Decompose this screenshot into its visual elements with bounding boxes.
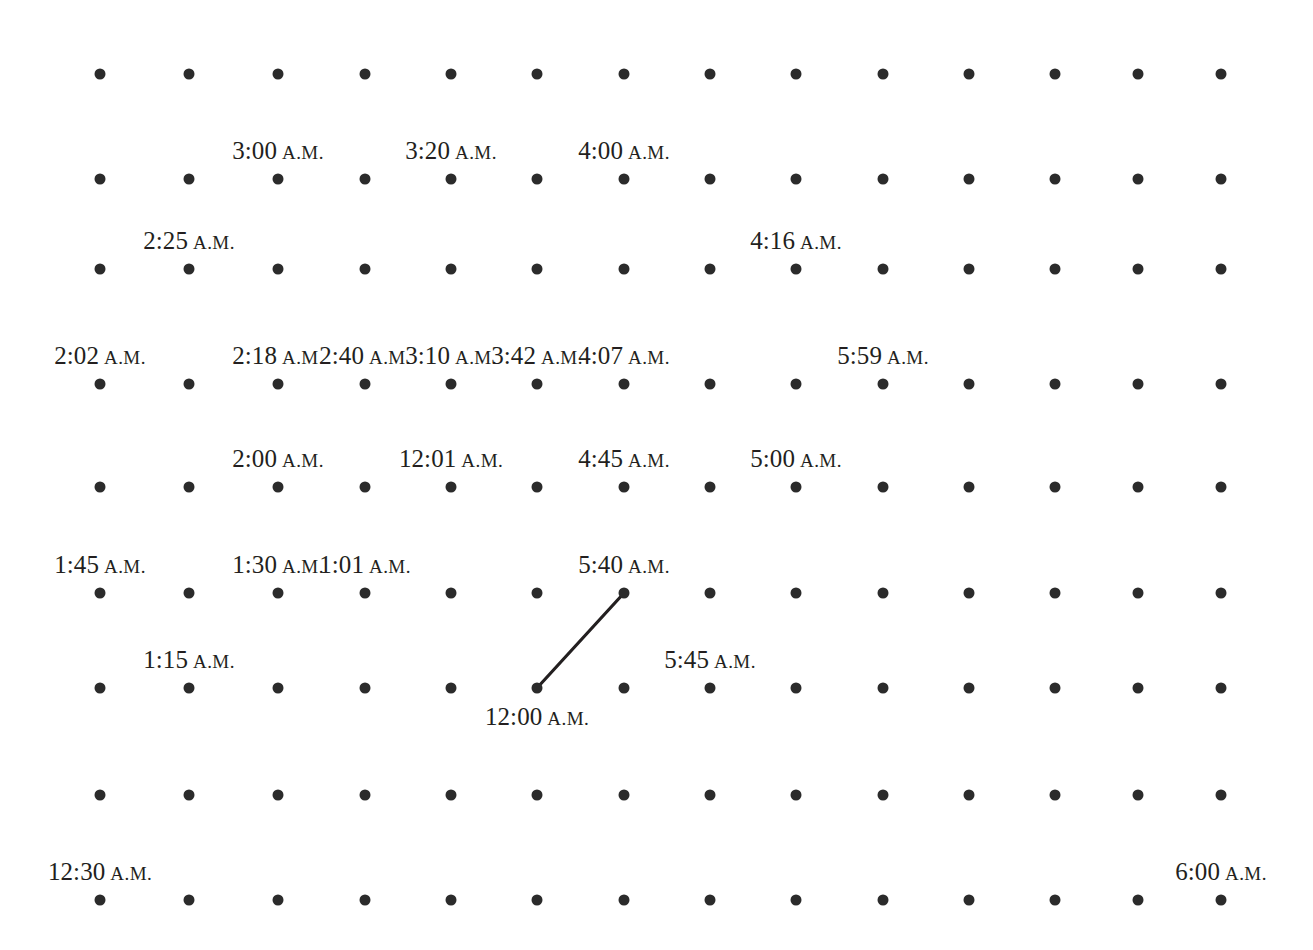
grid-dot: [1216, 379, 1227, 390]
time-label: 2:40A.M.: [319, 343, 411, 368]
time-label-value: 12:01: [399, 445, 456, 472]
grid-dot: [705, 895, 716, 906]
grid-dot: [1216, 790, 1227, 801]
grid-dot: [878, 790, 889, 801]
grid-dot: [1133, 264, 1144, 275]
dot-grid-figure: 3:00A.M.3:20A.M.4:00A.M.2:25A.M.4:16A.M.…: [0, 0, 1313, 950]
time-label: 2:18A.M.: [232, 343, 324, 368]
grid-dot: [705, 482, 716, 493]
grid-dot: [878, 683, 889, 694]
grid-dot: [1050, 174, 1061, 185]
time-label-meridiem: A.M.: [104, 556, 146, 577]
grid-dot: [1133, 69, 1144, 80]
time-label: 3:20A.M.: [405, 138, 497, 163]
time-label-value: 1:01: [319, 551, 364, 578]
grid-dot: [446, 174, 457, 185]
time-label: 12:01A.M.: [399, 446, 503, 471]
grid-dot: [273, 588, 284, 599]
time-label: 4:45A.M.: [578, 446, 670, 471]
time-label: 4:07A.M.: [578, 343, 670, 368]
grid-dot: [446, 588, 457, 599]
time-label: 2:00A.M.: [232, 446, 324, 471]
grid-dot: [619, 174, 630, 185]
time-label: 2:02A.M.: [54, 343, 146, 368]
grid-dot: [964, 588, 975, 599]
grid-dot: [446, 379, 457, 390]
grid-dot: [360, 588, 371, 599]
grid-dot: [705, 683, 716, 694]
time-label-meridiem: A.M.: [628, 450, 670, 471]
time-label-value: 1:15: [143, 646, 188, 673]
time-label-value: 3:20: [405, 137, 450, 164]
grid-dot: [446, 69, 457, 80]
grid-dot: [273, 790, 284, 801]
time-label: 5:00A.M.: [750, 446, 842, 471]
grid-dot: [791, 683, 802, 694]
grid-dot: [532, 264, 543, 275]
grid-dot: [532, 588, 543, 599]
time-label-meridiem: A.M.: [193, 651, 235, 672]
time-label-meridiem: A.M.: [461, 450, 503, 471]
time-label-meridiem: A.M.: [455, 142, 497, 163]
grid-dot: [446, 790, 457, 801]
grid-dot: [95, 895, 106, 906]
time-label: 3:00A.M.: [232, 138, 324, 163]
time-label: 1:01A.M.: [319, 552, 411, 577]
grid-dot: [619, 379, 630, 390]
time-label-value: 5:59: [837, 342, 882, 369]
time-label: 12:30A.M.: [48, 859, 152, 884]
time-label-value: 5:00: [750, 445, 795, 472]
time-label: 1:30A.M.: [232, 552, 324, 577]
time-label: 1:15A.M.: [143, 647, 235, 672]
grid-dot: [878, 379, 889, 390]
grid-dot: [95, 683, 106, 694]
grid-dot: [273, 683, 284, 694]
grid-dot: [532, 790, 543, 801]
grid-dot: [619, 790, 630, 801]
grid-dot: [95, 588, 106, 599]
grid-dot: [791, 588, 802, 599]
grid-dot: [532, 69, 543, 80]
grid-dot: [446, 683, 457, 694]
time-label: 1:45A.M.: [54, 552, 146, 577]
grid-dot: [532, 895, 543, 906]
grid-dot: [1050, 482, 1061, 493]
grid-dot: [878, 895, 889, 906]
time-label-value: 2:00: [232, 445, 277, 472]
grid-dot: [184, 379, 195, 390]
grid-dot: [705, 174, 716, 185]
time-label: 5:59A.M.: [837, 343, 929, 368]
time-label-value: 3:00: [232, 137, 277, 164]
time-label: 3:10A.M.: [405, 343, 497, 368]
grid-dot: [532, 482, 543, 493]
grid-dot: [1050, 69, 1061, 80]
time-label-meridiem: A.M.: [282, 450, 324, 471]
grid-dot: [619, 69, 630, 80]
connector-line: [537, 593, 624, 688]
grid-dot: [95, 174, 106, 185]
grid-dot: [360, 790, 371, 801]
grid-dot: [360, 379, 371, 390]
grid-dot: [184, 790, 195, 801]
grid-dot: [1050, 379, 1061, 390]
grid-dot: [360, 683, 371, 694]
time-label-value: 12:30: [48, 858, 105, 885]
grid-dot: [619, 588, 630, 599]
time-label: 4:00A.M.: [578, 138, 670, 163]
grid-dot: [791, 69, 802, 80]
time-label-value: 3:10: [405, 342, 450, 369]
time-label: 5:45A.M.: [664, 647, 756, 672]
grid-dot: [1050, 790, 1061, 801]
time-label-value: 1:30: [232, 551, 277, 578]
time-label-value: 1:45: [54, 551, 99, 578]
grid-dot: [964, 379, 975, 390]
grid-dot: [360, 264, 371, 275]
grid-dot: [619, 683, 630, 694]
grid-dot: [1133, 683, 1144, 694]
grid-dot: [95, 264, 106, 275]
time-label-meridiem: A.M.: [110, 863, 152, 884]
grid-dot: [619, 895, 630, 906]
time-label-meridiem: A.M.: [887, 347, 929, 368]
grid-dot: [446, 264, 457, 275]
grid-dot: [273, 69, 284, 80]
